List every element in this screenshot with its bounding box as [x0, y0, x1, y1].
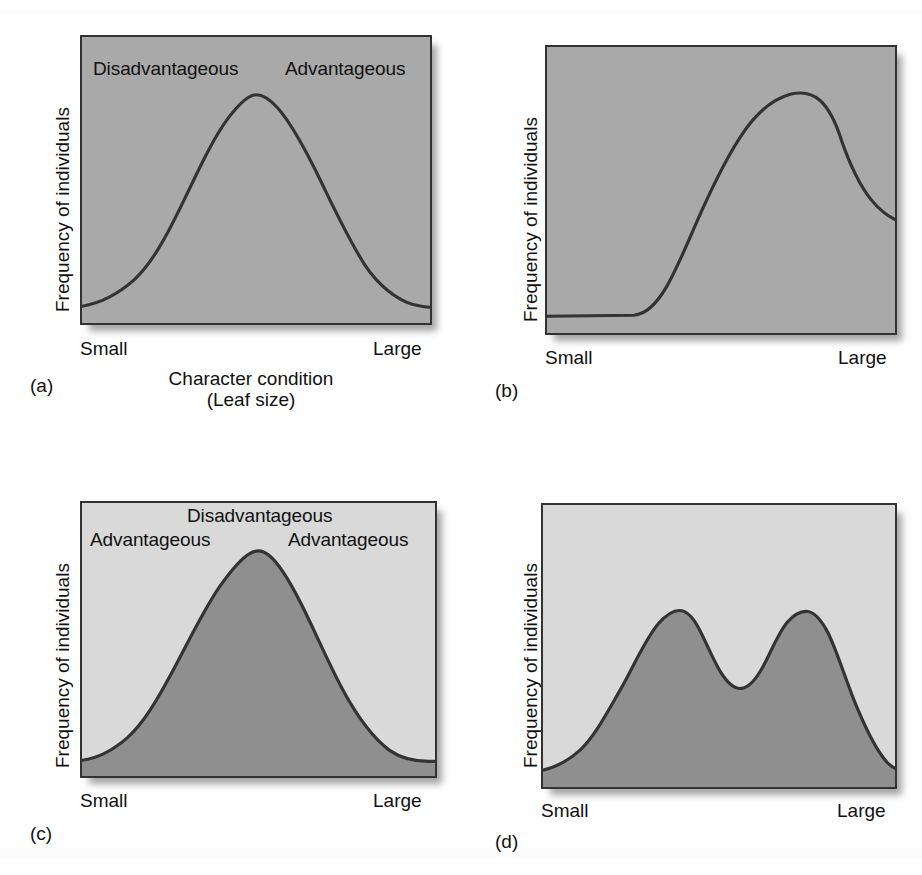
panel-b-curve-svg	[547, 47, 895, 333]
panel-a: Frequency of individuals Disadvantageous…	[0, 0, 462, 438]
panel-c-x-small-label: Small	[80, 790, 128, 812]
panel-a-x-small-label: Small	[80, 338, 128, 360]
panel-d-plot-box	[541, 503, 897, 789]
panel-a-note-disadvantageous: Disadvantageous	[93, 59, 238, 79]
panel-c-note-disadvantageous: Disadvantageous	[187, 506, 332, 526]
panel-a-x-large-label: Large	[373, 338, 422, 360]
panel-d-curve-svg	[543, 505, 895, 787]
panel-d: Frequency of individuals Small Large (d)	[462, 438, 922, 875]
panel-b-x-large-label: Large	[838, 347, 887, 369]
panel-a-x-axis-title-line1: Character condition	[136, 368, 366, 389]
panel-a-letter: (a)	[30, 375, 53, 397]
panel-c-note-advantageous-left: Advantageous	[90, 530, 210, 550]
panel-a-x-axis-title-line2: (Leaf size)	[136, 389, 366, 410]
panel-c-letter: (c)	[30, 823, 52, 845]
panel-c-plot-box: Disadvantageous Advantageous Advantageou…	[80, 501, 437, 778]
panel-b-y-axis-label: Frequency of individuals	[520, 117, 542, 322]
panel-c-note-advantageous-right: Advantageous	[288, 530, 408, 550]
panel-d-x-large-label: Large	[837, 800, 886, 822]
panel-a-note-advantageous: Advantageous	[285, 59, 405, 79]
panel-d-distribution-area	[543, 611, 895, 787]
panel-c-x-large-label: Large	[373, 790, 422, 812]
panel-b: Frequency of individuals Small Large (b)	[462, 0, 922, 438]
panel-d-x-small-label: Small	[541, 800, 589, 822]
panel-a-curve-svg	[82, 37, 430, 323]
panel-b-plot-box	[545, 45, 897, 335]
panel-c-y-axis-label: Frequency of individuals	[52, 563, 74, 768]
panel-b-distribution-curve	[547, 93, 895, 316]
panel-b-x-small-label: Small	[545, 347, 593, 369]
panel-a-x-axis-title: Character condition (Leaf size)	[136, 368, 366, 411]
panel-b-letter: (b)	[495, 380, 518, 402]
figure-root: Frequency of individuals Disadvantageous…	[0, 0, 922, 875]
panel-a-distribution-curve	[82, 95, 430, 307]
panel-d-letter: (d)	[495, 831, 518, 853]
panel-d-y-axis-label: Frequency of individuals	[520, 563, 542, 768]
panel-c: Frequency of individuals Disadvantageous…	[0, 438, 462, 875]
panel-a-plot-box: Disadvantageous Advantageous	[80, 35, 432, 325]
panel-a-y-axis-label: Frequency of individuals	[52, 107, 74, 312]
